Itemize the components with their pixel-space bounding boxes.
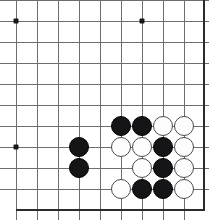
bottom-edge [16, 209, 205, 211]
go-board[interactable] [0, 0, 209, 220]
board-edge-layer [0, 0, 209, 220]
right-edge [203, 0, 205, 210]
